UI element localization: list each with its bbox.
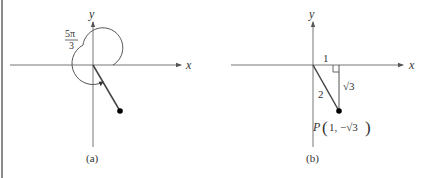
panel-b-point-P — [336, 108, 342, 114]
panel-b-right-angle-marker — [333, 65, 339, 72]
panel-b-x-label: x — [408, 58, 415, 72]
panel-b-point-label-close-paren: ) — [365, 118, 371, 137]
panel-a-angle-arc — [72, 28, 123, 85]
panel-a-x-label: x — [185, 58, 192, 72]
panel-a-point — [117, 108, 123, 114]
panel-a-terminal-ray — [93, 65, 120, 111]
panel-a-angle-numerator: 5π — [65, 28, 75, 39]
panel-b-vertical-leg-label: √3 — [343, 80, 355, 92]
panel-a-caption: (a) — [86, 152, 99, 165]
panel-a: x y 5π 3 (a) — [10, 7, 192, 165]
panel-b-caption: (b) — [306, 152, 319, 165]
panel-b-point-label-coords: 1, −√3 — [329, 121, 358, 133]
panel-b-point-label-prefix: P — [312, 120, 321, 134]
panel-a-angle-denominator: 3 — [69, 40, 74, 51]
panel-b-y-label: y — [308, 7, 315, 21]
panel-b-hypotenuse-label: 2 — [318, 88, 324, 100]
panel-a-y-label: y — [88, 7, 95, 21]
panel-b: x y 1 2 √3 P ( 1, −√3 ) (b) — [231, 7, 415, 165]
diagram-canvas: x y 5π 3 (a) x y 1 2 √3 P — [0, 0, 423, 178]
panel-b-point-label-open-paren: ( — [322, 118, 328, 137]
panel-b-horizontal-leg-label: 1 — [323, 52, 329, 64]
